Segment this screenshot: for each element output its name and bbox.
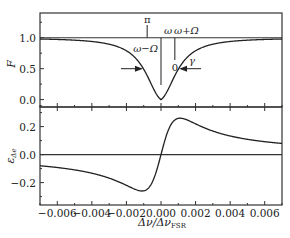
top-y-tick-label: 0.0: [19, 94, 36, 106]
omega-plus-label: ω+Ω: [174, 25, 199, 36]
top-panel: 0.00.51.0 F π ω ω+Ω ω−Ω 0 γ: [5, 13, 282, 107]
bottom-y-tick-label: −0.2: [11, 177, 37, 189]
chart-figure: 0.00.51.0 F π ω ω+Ω ω−Ω 0 γ −0.20.00.2 −…: [0, 0, 290, 238]
gamma-label: γ: [189, 55, 195, 66]
bottom-y-tick-label: 0.0: [19, 149, 36, 161]
x-axis-label-subscript: FSR: [171, 222, 187, 230]
gamma-arrow-left: [121, 66, 143, 72]
omega-minus-label: ω−Ω: [133, 43, 158, 54]
top-y-tick-label: 1.0: [19, 32, 36, 44]
bottom-y-axis-label-subscript: Δe: [10, 148, 18, 158]
x-axis-label: Δν/ΔνFSR: [137, 216, 187, 230]
bottom-x-tick-label: 0.002: [181, 207, 211, 219]
pi-label: π: [144, 14, 151, 25]
top-y-tick-label: 0.5: [19, 63, 36, 75]
gamma-arrow-right: [179, 66, 201, 72]
omega-label: ω: [164, 25, 172, 36]
top-y-axis-label: F: [5, 60, 18, 69]
bottom-x-ticks: −0.006−0.004−0.0020.0000.0020.0040.006: [38, 107, 282, 219]
bottom-x-tick-label: −0.004: [72, 207, 111, 219]
bottom-y-axis-label: εΔe: [4, 148, 18, 163]
bottom-x-tick-label: 0.006: [250, 207, 280, 219]
bottom-panel: −0.20.00.2 −0.006−0.004−0.0020.0000.0020…: [4, 107, 282, 230]
bottom-x-tick-label: 0.004: [215, 207, 245, 219]
bottom-y-tick-label: 0.2: [19, 121, 36, 133]
bottom-x-tick-label: −0.006: [38, 207, 77, 219]
zero-label: 0: [172, 62, 178, 73]
